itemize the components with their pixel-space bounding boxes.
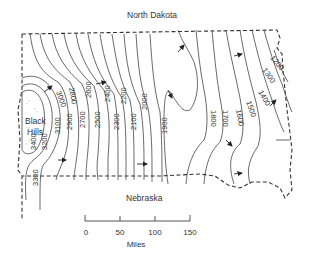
svg-text:1300: 1300	[260, 66, 277, 85]
svg-text:3300: 3300	[31, 169, 40, 186]
svg-text:1800: 1800	[209, 110, 218, 127]
svg-text:2200: 2200	[119, 87, 128, 104]
contour-lines	[22, 30, 292, 210]
scale-tick-50: 50	[116, 228, 125, 237]
svg-text:. ': . '	[26, 99, 30, 105]
contour-map: . '' .. , ' ., '. 3400 3300 3200	[0, 0, 312, 259]
svg-text:1600: 1600	[234, 109, 246, 127]
scale-tick-150: 150	[183, 228, 196, 237]
svg-text:2800: 2800	[67, 87, 79, 105]
svg-text:2600: 2600	[84, 81, 93, 98]
svg-text:2300: 2300	[112, 113, 121, 130]
label-hills: Hills	[27, 127, 43, 137]
svg-text:3100: 3100	[53, 117, 62, 134]
svg-text:1900: 1900	[160, 117, 169, 134]
scale-unit: Miles	[127, 240, 146, 249]
scale-tick-100: 100	[148, 228, 161, 237]
svg-text:1700: 1700	[221, 110, 230, 127]
svg-text:1400: 1400	[256, 89, 272, 108]
svg-text:3000: 3000	[54, 90, 68, 109]
scale-tick-0: 0	[84, 228, 88, 237]
svg-text:.: .	[38, 95, 39, 101]
label-north-dakota: North Dakota	[127, 10, 177, 20]
contour-labels: 3400 3300 3200 3100 3000 2900 2800 2700 …	[29, 54, 286, 186]
svg-text:2900: 2900	[65, 113, 74, 130]
label-black: Black	[25, 116, 46, 126]
svg-text:' .: ' .	[34, 107, 38, 113]
svg-text:2100: 2100	[129, 113, 138, 130]
svg-text:2400: 2400	[103, 85, 112, 102]
label-nebraska: Nebraska	[126, 193, 162, 203]
svg-text:2500: 2500	[93, 111, 102, 128]
svg-text:2000: 2000	[140, 93, 149, 110]
scale-bar	[85, 215, 190, 221]
svg-text:2700: 2700	[78, 111, 87, 128]
